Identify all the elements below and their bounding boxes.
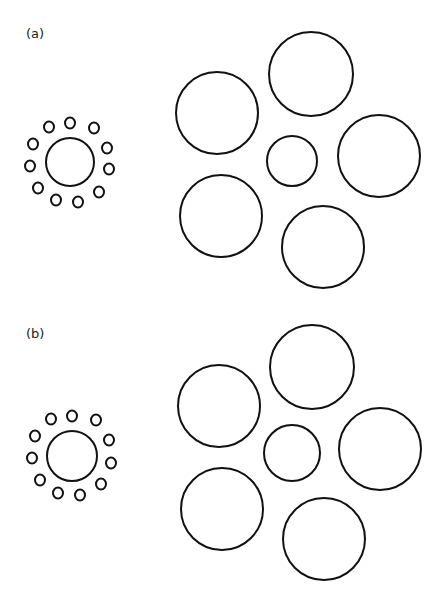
target-circle-large-context	[264, 425, 320, 481]
panel-b	[27, 325, 421, 580]
inducer-large-circle	[282, 206, 364, 288]
inducer-small-circle	[96, 479, 106, 490]
inducer-small-circle	[28, 139, 38, 150]
inducer-small-circle	[102, 143, 112, 154]
inducer-small-circle	[73, 197, 83, 208]
inducer-small-circle	[35, 475, 45, 486]
inducer-small-circle	[94, 187, 104, 198]
inducer-small-circle	[44, 122, 54, 133]
inducer-large-circle	[178, 365, 260, 447]
inducer-large-circle	[338, 115, 420, 197]
inducer-small-circle	[27, 453, 37, 464]
inducer-small-circle	[104, 164, 114, 175]
inducer-small-circle	[51, 195, 61, 206]
inducer-small-circle	[106, 458, 116, 469]
inducer-large-circle	[181, 468, 263, 550]
inducer-small-circle	[91, 415, 101, 426]
inducer-large-circle	[176, 72, 258, 154]
inducer-small-circle	[46, 414, 56, 425]
inducer-small-circle	[75, 490, 85, 501]
inducer-small-circle	[65, 118, 75, 129]
inducer-large-circle	[339, 408, 421, 490]
inducer-small-circle	[67, 411, 77, 422]
inducer-large-circle	[270, 325, 354, 409]
ebbinghaus-diagram	[0, 0, 442, 603]
target-circle-small-context	[46, 138, 94, 186]
inducer-small-circle	[89, 123, 99, 134]
inducer-small-circle	[104, 435, 114, 446]
inducer-large-circle	[269, 32, 353, 116]
inducer-small-circle	[30, 431, 40, 442]
target-circle-small-context	[47, 431, 97, 481]
panel-a	[25, 32, 420, 288]
inducer-large-circle	[180, 175, 262, 257]
inducer-large-circle	[283, 498, 365, 580]
inducer-small-circle	[25, 161, 35, 172]
target-circle-large-context	[267, 136, 317, 186]
inducer-small-circle	[33, 183, 43, 194]
inducer-small-circle	[53, 488, 63, 499]
